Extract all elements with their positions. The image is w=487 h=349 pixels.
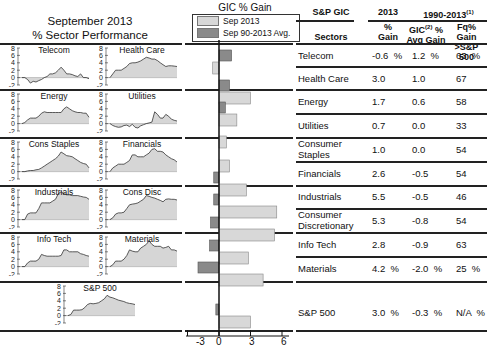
sector-name: Health Care (298, 73, 349, 84)
svg-text:0: 0 (11, 74, 15, 81)
mini-chart: 86420-2S&P 500 (50, 283, 140, 325)
fq-gain: 67 (456, 73, 467, 84)
svg-text:6: 6 (11, 194, 15, 201)
avg-gain: 0.0 (412, 144, 425, 155)
svg-text:2: 2 (99, 209, 103, 216)
gain-2013: 1.0 (372, 144, 385, 155)
svg-text:0: 0 (99, 74, 103, 81)
svg-text:6: 6 (11, 241, 15, 248)
x-tick: 3 (249, 336, 255, 347)
avg-gain: -0.5 (412, 168, 428, 179)
divider (0, 330, 182, 332)
svg-text:8: 8 (11, 139, 15, 146)
sector-name: Telecom (298, 50, 333, 61)
gain-2013: -0.6 % (372, 50, 402, 61)
svg-text:8: 8 (99, 45, 103, 52)
svg-text:2: 2 (11, 161, 15, 168)
legend-label: Sep 2013 (223, 16, 259, 26)
mini-chart: 86420-2Energy (4, 91, 94, 133)
mini-chart: 86420-2Info Tech (4, 234, 94, 276)
fq-gain: 46 (456, 191, 467, 202)
fq-gain: 58 (456, 96, 467, 107)
row-rule (296, 113, 487, 115)
mini-chart: 86420-2Industrials (4, 187, 94, 229)
sector-name: S&P 500 (298, 307, 335, 318)
bar-chart-legend: Sep 2013 Sep 90-2013 Avg. (192, 14, 300, 42)
svg-text:8: 8 (99, 91, 103, 98)
svg-text:8: 8 (11, 187, 15, 194)
gain-2013: 5.5 (372, 191, 385, 202)
avg-gain: 1.0 (412, 73, 425, 84)
divider (0, 43, 182, 45)
sector-name: Industrials (298, 191, 341, 202)
row-rule (296, 89, 487, 91)
mini-chart: 86420-2Cons Staples (4, 139, 94, 181)
gain-2013: 3.0 (372, 73, 385, 84)
header-avg-gain: GIC(2) % Avg Gain (404, 22, 448, 45)
row-rule (296, 43, 487, 45)
svg-text:8: 8 (99, 139, 103, 146)
svg-text:6: 6 (11, 146, 15, 153)
row-rule (296, 185, 487, 187)
svg-text:0: 0 (99, 263, 103, 270)
svg-text:-2: -2 (97, 271, 103, 277)
header-sectors: Sectors (296, 32, 366, 42)
mini-chart-title: Telecom (18, 45, 90, 55)
fq-gain: 54 (456, 215, 467, 226)
svg-text:6: 6 (57, 290, 61, 297)
svg-text:4: 4 (11, 201, 15, 208)
avg-gain: 0.6 (412, 96, 425, 107)
svg-text:0: 0 (11, 120, 15, 127)
legend-item-avg: Sep 90-2013 Avg. (193, 27, 299, 39)
svg-text:2: 2 (11, 256, 15, 263)
title-line-1: September 2013 (0, 14, 180, 28)
gain-2013: 1.7 (372, 96, 385, 107)
mini-chart-title: Financials (106, 139, 178, 149)
svg-text:0: 0 (11, 168, 15, 175)
svg-text:0: 0 (57, 312, 61, 319)
svg-text:-2: -2 (97, 224, 103, 230)
row-rule (296, 161, 487, 163)
sector-name: ConsumerDiscretionary (298, 209, 353, 231)
sector-name: Financials (298, 168, 341, 179)
svg-text:-2: -2 (9, 128, 15, 134)
mini-chart: 86420-2Telecom (4, 45, 94, 87)
mini-chart-title: Cons Disc (106, 187, 178, 197)
avg-gain: 1.2 % (412, 50, 439, 61)
fq-gain: 25 % (456, 263, 480, 274)
row-rule (296, 281, 487, 283)
svg-text:2: 2 (11, 67, 15, 74)
fq-gain: 33 (456, 120, 467, 131)
svg-text:6: 6 (99, 241, 103, 248)
svg-text:8: 8 (11, 45, 15, 52)
svg-text:4: 4 (99, 153, 103, 160)
gain-2013: 0.7 (372, 120, 385, 131)
legend-swatch-light (197, 16, 219, 26)
title-line-2: % Sector Performance (0, 28, 180, 42)
sector-name: Utilities (298, 120, 329, 131)
divider (0, 185, 182, 187)
svg-text:4: 4 (99, 59, 103, 66)
svg-text:2: 2 (99, 113, 103, 120)
svg-text:4: 4 (99, 248, 103, 255)
divider (0, 281, 182, 283)
svg-text:-2: -2 (9, 271, 15, 277)
svg-text:-2: -2 (9, 82, 15, 88)
mini-chart: 86420-2Utilities (92, 91, 182, 133)
svg-text:0: 0 (99, 168, 103, 175)
header-1990-2013: 1990-2013(1) (410, 7, 487, 20)
svg-text:0: 0 (11, 263, 15, 270)
legend-swatch-dark (197, 28, 219, 38)
row-rule (296, 256, 487, 258)
svg-text:4: 4 (99, 105, 103, 112)
fq-gain: 63 (456, 239, 467, 250)
svg-text:4: 4 (57, 297, 61, 304)
legend-label: Sep 90-2013 Avg. (223, 28, 290, 38)
fq-gain: 54 (456, 144, 467, 155)
mini-chart: 86420-2Financials (92, 139, 182, 181)
mini-chart-title: Industrials (18, 187, 90, 197)
mini-chart-title: Materials (106, 234, 178, 244)
svg-text:-2: -2 (9, 224, 15, 230)
svg-text:0: 0 (11, 216, 15, 223)
sector-name: Info Tech (298, 239, 336, 250)
